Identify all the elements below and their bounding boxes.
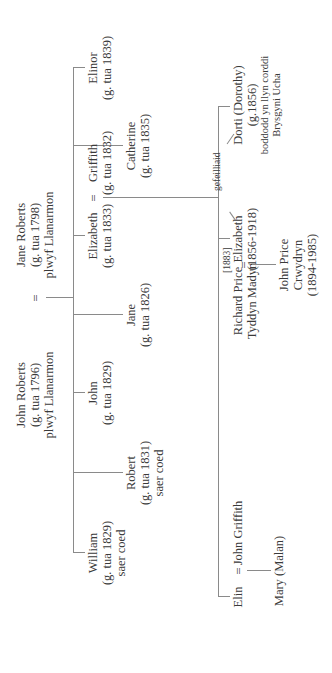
person-occupation: saer coed	[152, 441, 166, 505]
person-name: Richard Price	[231, 263, 245, 340]
person-name: John Roberts	[14, 351, 28, 438]
grandchild-dorti: Dorti (Dorothy) (g.1856) boddodd yn llyn…	[231, 56, 283, 154]
person-name: Jane Roberts	[14, 191, 28, 278]
descent-line	[252, 264, 276, 265]
child-william: William (g. tua 1829) saer coed	[86, 521, 128, 585]
drop-dorti	[218, 106, 230, 107]
great-grandchild-john-price: John Price Crwydryn (1894-1985)	[277, 234, 319, 297]
parent-john-roberts: John Roberts (g. tua 1796) plwyf Llanarm…	[14, 351, 56, 438]
grandchild-elin: Elin	[231, 587, 245, 608]
person-birth: (1856-1918)	[245, 208, 259, 271]
person-birth: (g. tua 1833)	[100, 204, 114, 268]
drop-john	[73, 392, 85, 393]
child-elizabeth: Elizabeth (g. tua 1833)	[86, 204, 114, 268]
person-place: plwyf Llanarmon	[42, 351, 56, 438]
person-name: Elizabeth	[86, 204, 100, 268]
drop-jane	[73, 314, 123, 315]
drop-william	[73, 552, 85, 553]
person-nickname: Crwydryn	[291, 234, 305, 297]
child-john: John (g. tua 1829)	[86, 361, 114, 425]
person-birth: (g. tua 1832)	[100, 131, 114, 195]
person-birth: (g. tua 1835)	[138, 114, 152, 178]
marriage-symbol: =	[86, 194, 102, 201]
spouse-griffith: Griffith (g. tua 1832)	[86, 131, 114, 195]
drop-elizabeth-2	[218, 238, 230, 239]
person-occupation: saer coed	[114, 521, 128, 585]
person-birth: (g. tua 1829)	[100, 361, 114, 425]
person-place: Tyddyn Madyn	[245, 263, 259, 340]
person-birth: (g. tua 1798)	[28, 191, 42, 278]
parent-jane-roberts: Jane Roberts (g. tua 1798) plwyf Llanarm…	[14, 191, 56, 278]
person-note: boddodd yn llyn corddi	[259, 56, 271, 154]
person-name: John Price	[277, 234, 291, 297]
person-dates: (1894-1985)	[305, 234, 319, 297]
person-name: William	[86, 521, 100, 585]
child-catherine: Catherine (g. tua 1835)	[124, 114, 152, 178]
person-birth: (g. tua 1826)	[138, 283, 152, 347]
family-tree-diagram: John Roberts (g. tua 1796) plwyf Llanarm…	[0, 0, 332, 673]
couple-descent-line	[103, 197, 218, 198]
person-name: John	[86, 361, 100, 425]
great-grandchild-mary: Mary (Malan)	[272, 536, 286, 606]
person-place: Brysgyni Ucha	[271, 56, 283, 154]
person-name: Jane	[124, 283, 138, 347]
person-name: Elinor	[86, 36, 100, 100]
person-place: plwyf Llanarmon	[42, 191, 56, 278]
person-name: Griffith	[86, 131, 100, 195]
person-birth: (g. tua 1839)	[100, 36, 114, 100]
drop-elin	[218, 596, 230, 597]
person-name: Catherine	[124, 114, 138, 178]
drop-robert	[73, 472, 123, 473]
child-elinor: Elinor (g. tua 1839)	[86, 36, 114, 100]
drop-elizabeth	[73, 235, 85, 236]
descent-line	[247, 570, 271, 571]
spouse-richard-price: Richard Price Tyddyn Madyn	[231, 263, 259, 340]
person-birth: (g. tua 1831)	[138, 441, 152, 505]
siblings-bar	[73, 67, 74, 553]
spouse-john-griffith: John Griffith	[231, 501, 245, 566]
child-robert: Robert (g. tua 1831) saer coed	[124, 441, 166, 505]
person-name: Robert	[124, 441, 138, 505]
marriage-symbol: =	[28, 294, 44, 301]
grandchild-elizabeth: Elizabeth (1856-1918)	[231, 208, 259, 271]
parents-descent-line	[46, 297, 73, 298]
person-birth: (g. tua 1829)	[100, 521, 114, 585]
person-name: Dorti (Dorothy)	[231, 56, 245, 154]
person-birth: (g.1856)	[245, 56, 259, 154]
twins-label: gefeilliaid	[212, 152, 222, 191]
drop-elinor	[73, 67, 85, 68]
child-jane: Jane (g. tua 1826)	[124, 283, 152, 347]
marriage-symbol: =	[231, 567, 247, 574]
person-birth: (g. tua 1796)	[28, 351, 42, 438]
